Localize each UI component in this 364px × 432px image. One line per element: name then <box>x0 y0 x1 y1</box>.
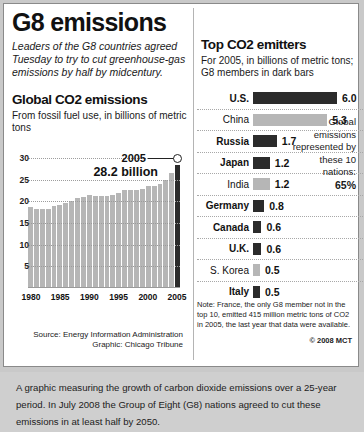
emitter-value: 0.5 <box>260 286 280 298</box>
chart-bar <box>158 184 163 287</box>
chart-y-tick-label: 30 <box>20 153 29 163</box>
callout-marker-icon <box>173 154 182 163</box>
emitter-row: Canada0.6 <box>197 217 363 239</box>
emitter-row: U.K.0.6 <box>197 239 363 261</box>
emitter-value: 0.8 <box>264 200 284 212</box>
chart-bar <box>57 205 62 287</box>
emitter-bar <box>253 92 337 104</box>
chart-x-tick-label: 1990 <box>80 292 99 302</box>
chart-bar <box>99 196 104 287</box>
global-emissions-chart: 51015202530 198019851990199520002005 200… <box>6 152 184 312</box>
chart-gridline <box>28 266 180 267</box>
emitter-row: S. Korea0.5 <box>197 260 363 282</box>
chart-x-tick-label: 1985 <box>51 292 70 302</box>
chart-bar <box>87 195 92 287</box>
emitter-bar <box>253 221 261 233</box>
chart-y-tick-label: 15 <box>20 218 29 228</box>
emitter-row: Italy0.5 <box>197 282 363 303</box>
chart-bar <box>46 209 51 287</box>
global-share-text: Global emissions represented by these 10… <box>293 116 356 177</box>
emitter-value: 0.6 <box>261 243 281 255</box>
emitter-name: U.S. <box>197 93 253 104</box>
chart-bar <box>75 198 80 287</box>
emitter-name: Russia <box>197 136 253 147</box>
page-title: G8 emissions <box>12 10 191 35</box>
callout-year: 2005 <box>122 152 146 164</box>
chart-gridline <box>28 245 180 246</box>
emitter-name: S. Korea <box>197 265 253 276</box>
emitter-row: Germany0.8 <box>197 196 363 218</box>
chart-bar <box>81 197 86 287</box>
emitter-value: 1.2 <box>270 157 290 169</box>
global-share-box: Global emissions represented by these 10… <box>292 116 356 193</box>
chart-callout: 2005 28.2 billion <box>72 152 184 186</box>
chart-bar <box>163 180 168 287</box>
emitter-name: China <box>197 114 253 125</box>
chart-bar <box>116 193 121 287</box>
chart-bar <box>52 206 57 287</box>
chart-x-axis: 198019851990199520002005 <box>28 292 180 306</box>
emitter-value: 0.6 <box>261 221 281 233</box>
chart-bar <box>34 209 39 287</box>
chart-gridline <box>28 201 180 202</box>
right-section-title: Top CO2 emitters <box>201 38 356 53</box>
chart-y-tick-label: 5 <box>24 261 29 271</box>
emitter-bar <box>253 264 260 276</box>
chart-bar <box>40 209 45 287</box>
chart-bar <box>134 190 139 288</box>
emitter-value: 6.0 <box>337 92 357 104</box>
emitter-bar <box>253 243 261 255</box>
source-credit: Source: Energy Information Administratio… <box>8 330 183 351</box>
emitter-name: U.K. <box>197 243 253 254</box>
deck-text: Leaders of the G8 countries agreed Tuesd… <box>12 40 187 79</box>
chart-y-tick-label: 10 <box>20 240 29 250</box>
caption-bar: A graphic measuring the growth of carbon… <box>0 372 364 432</box>
emitter-name: India <box>197 179 253 190</box>
global-share-value: 65% <box>335 179 356 191</box>
infographic: G8 emissions Leaders of the G8 countries… <box>0 0 364 432</box>
chart-gridline <box>28 223 180 224</box>
callout-value: 28.2 billion <box>93 165 158 179</box>
chart-x-tick-label: 1980 <box>21 292 40 302</box>
graphic-credit-line: Graphic: Chicago Tribune <box>8 340 183 350</box>
chart-x-tick-label: 2005 <box>168 292 187 302</box>
copyright-notice: © 2008 MCT <box>309 336 352 345</box>
chart-bar <box>93 196 98 287</box>
chart-y-tick-label: 25 <box>20 175 29 185</box>
emitter-value: 1.2 <box>270 178 290 190</box>
chart-bar <box>128 190 133 288</box>
emitter-bar <box>253 135 277 147</box>
emitter-name: Japan <box>197 157 253 168</box>
chart-x-tick-label: 1995 <box>109 292 128 302</box>
left-section-title: Global CO2 emissions <box>12 93 191 108</box>
chart-bar <box>122 190 127 287</box>
callout-leader-line <box>148 158 174 159</box>
emitter-name: Italy <box>197 286 253 297</box>
chart-bar <box>169 173 174 287</box>
emitter-value: 0.5 <box>260 264 280 276</box>
emitter-name: Canada <box>197 222 253 233</box>
emitter-bar <box>253 157 270 169</box>
left-section-subtitle: From fossil fuel use, in billions of met… <box>12 110 191 134</box>
chart-bar <box>105 196 110 287</box>
chart-y-tick-label: 20 <box>20 196 29 206</box>
footnote: Note: France, the only G8 member not in … <box>197 300 357 330</box>
emitter-name: Germany <box>197 200 253 211</box>
source-line: Source: Energy Information Administratio… <box>8 330 183 340</box>
emitter-bar <box>253 200 264 212</box>
emitter-bar <box>253 178 270 190</box>
emitter-row: U.S.6.0 <box>197 88 363 110</box>
chart-bar <box>110 195 115 287</box>
right-section-subtitle: For 2005, in billions of metric tons; G8… <box>201 55 356 79</box>
emitter-bar <box>253 286 260 298</box>
chart-bar <box>140 189 145 287</box>
chart-x-tick-label: 2000 <box>138 292 157 302</box>
graphic-panel: G8 emissions Leaders of the G8 countries… <box>3 3 359 367</box>
